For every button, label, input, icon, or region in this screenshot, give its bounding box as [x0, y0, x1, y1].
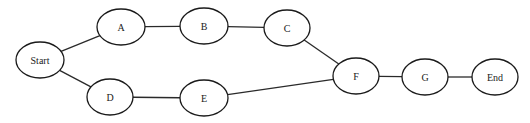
edge-start-d — [60, 70, 91, 87]
node-label: A — [117, 22, 125, 33]
node-c: C — [264, 10, 310, 46]
edge-d-e — [133, 97, 180, 98]
node-f: F — [333, 58, 379, 94]
node-end: End — [472, 59, 518, 95]
node-label: F — [353, 71, 359, 82]
edge-c-f — [304, 40, 339, 64]
node-label: Start — [31, 55, 50, 66]
nodes-layer: StartABCDEFGEnd — [16, 8, 518, 116]
network-diagram: StartABCDEFGEnd — [0, 0, 530, 123]
node-label: E — [201, 93, 207, 104]
node-label: D — [106, 92, 113, 103]
node-start: Start — [16, 42, 64, 78]
node-label: End — [487, 72, 503, 83]
node-e: E — [180, 80, 228, 116]
node-d: D — [87, 79, 133, 115]
node-label: G — [421, 72, 428, 83]
node-a: A — [97, 9, 145, 45]
edge-b-c — [228, 27, 264, 28]
node-label: B — [201, 21, 208, 32]
node-g: G — [402, 59, 448, 95]
edge-e-f — [228, 79, 334, 94]
edge-start-a — [61, 36, 100, 52]
node-label: C — [284, 23, 291, 34]
node-b: B — [180, 8, 228, 44]
